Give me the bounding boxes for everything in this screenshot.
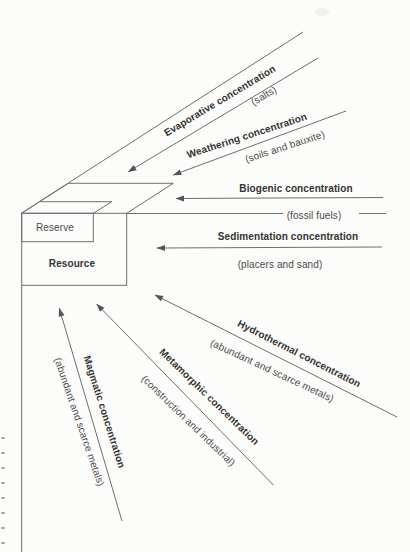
sedimentation-subtitle: (placers and sand) <box>238 260 323 270</box>
weathering-arrow <box>173 111 346 175</box>
sedimentation-title: Sedimentation concentration <box>218 232 359 242</box>
resource-box-top-face <box>22 183 174 213</box>
scan-smudge-artifact <box>315 8 329 16</box>
sedimentation-arrow <box>157 247 382 248</box>
resource-label: Resource <box>49 259 95 269</box>
reserve-box-top-face <box>40 202 112 214</box>
biogenic-arrow <box>176 198 383 199</box>
concentration-funnel-diagram: Reserve Resource Evaporative concentrati… <box>0 0 410 552</box>
reserve-label: Reserve <box>36 223 74 233</box>
hydrothermal-arrow <box>155 295 397 417</box>
diagram-lines <box>0 0 410 552</box>
biogenic-subtitle: (fossil fuels) <box>287 211 342 221</box>
magmatic-arrow <box>59 308 122 521</box>
biogenic-title: Biogenic concentration <box>239 184 352 194</box>
